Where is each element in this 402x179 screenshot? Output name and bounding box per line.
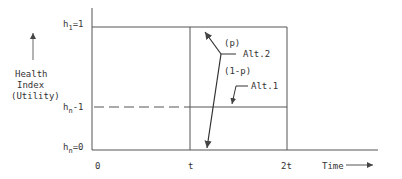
- annotation-alt1: Alt.1: [251, 81, 278, 91]
- x-tick-0: 0: [95, 161, 100, 171]
- alt1-pointer-arrow: [232, 86, 248, 104]
- y-axis-title-line1: Health: [15, 69, 48, 79]
- diagram-canvas: [0, 0, 402, 179]
- level-hn-suffix: =0: [73, 142, 84, 152]
- y-axis-title-line2: Index: [17, 80, 44, 90]
- annotation-p: (p): [224, 38, 240, 48]
- level-h1-sub: 1: [68, 24, 72, 32]
- x-tick-2t: 2t: [281, 161, 292, 171]
- alt2-down-arrow: [207, 54, 221, 148]
- alt2-up-arrow: [205, 32, 221, 54]
- level-h1-suffix: =1: [73, 19, 84, 29]
- level-hn: hn=0: [63, 142, 83, 153]
- level-hn1-sub: n: [68, 107, 72, 115]
- level-hn-1: hn-1: [63, 102, 83, 113]
- annotation-alt2: Alt.2: [243, 49, 270, 59]
- x-axis-title: Time: [322, 161, 344, 171]
- level-hn1-suffix: -1: [73, 102, 84, 112]
- x-tick-t: t: [188, 161, 193, 171]
- annotation-1-minus-p: (1-p): [224, 66, 251, 76]
- y-axis-title-line3: (Utility): [11, 91, 60, 101]
- level-h1: h1=1: [63, 19, 83, 30]
- level-hn-sub: n: [68, 147, 72, 155]
